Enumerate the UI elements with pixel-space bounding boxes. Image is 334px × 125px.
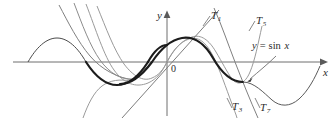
sine-equation-y: y [252,40,257,51]
sine-equation-function: sin [269,40,281,51]
curve-label-T3-subscript: 3 [239,106,243,114]
sine-equation-equals: = [260,40,266,51]
curve-label-T3: T3 [232,101,242,112]
curve-label-T5-base: T [256,14,262,26]
sine-equation-label: y=sin x [252,41,289,52]
sine-equation-argument: x [284,40,289,51]
x-axis-arrowhead [320,58,328,65]
curve-label-T1-subscript: 1 [218,15,222,23]
curve-sine-main [120,38,243,84]
y-axis-label: y [157,10,162,21]
graph-canvas [0,0,334,125]
x-axis-label: x [323,67,328,78]
curve-sine-left-hump [28,38,86,62]
curve-label-T7: T7 [260,102,270,113]
curve-taylor-lower-left-branch [83,80,131,118]
curve-sine-right-trough [243,66,320,105]
sine-label-leader-arrowhead [247,78,252,82]
curve-label-T7-subscript: 7 [267,107,271,115]
origin-label: 0 [171,64,176,74]
taylor-polynomial-figure: y x 0 T1 T5 T3 T7 y=sin x [0,0,334,125]
curve-label-T1: T1 [211,10,221,21]
curve-label-T5: T5 [256,15,266,26]
y-axis-arrowhead [164,11,171,19]
curve-taylor-left-divergence [74,3,133,79]
curve-label-T7-base: T [260,101,266,113]
curve-label-T3-base: T [232,100,238,112]
t5-leader-line [249,21,255,31]
curve-label-T5-subscript: 5 [263,20,267,28]
curve-label-T1-base: T [211,9,217,21]
